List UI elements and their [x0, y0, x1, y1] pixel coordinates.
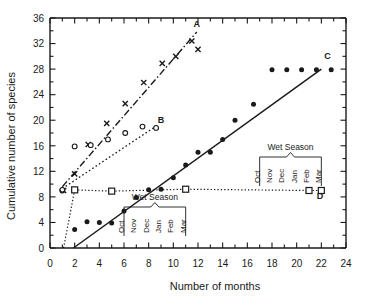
- data-point: [270, 67, 275, 72]
- data-point: [72, 144, 77, 149]
- month-label-mar-right: Mar: [314, 169, 323, 183]
- x-tick-label: 0: [47, 258, 53, 269]
- data-point: [85, 219, 90, 224]
- series-b: [60, 124, 159, 193]
- data-point: [173, 54, 178, 59]
- series-a: [61, 32, 201, 193]
- data-series-layer: [60, 32, 334, 248]
- chart-container: Cumulative number of species Number of m…: [0, 0, 367, 298]
- series-c: [72, 67, 334, 248]
- month-label-jan-right: Jan: [290, 170, 299, 183]
- data-point: [123, 131, 128, 136]
- x-tick-label: 20: [291, 258, 303, 269]
- month-label-jan-left: Jan: [154, 220, 163, 233]
- data-point: [299, 67, 304, 72]
- month-label-feb-left: Feb: [166, 219, 175, 233]
- month-label-feb-right: Feb: [302, 169, 311, 183]
- month-label-mar-left: Mar: [179, 219, 188, 233]
- y-tick-label: 16: [33, 141, 45, 152]
- species-accumulation-chart: Cumulative number of species Number of m…: [0, 0, 367, 298]
- month-label-dec-left: Dec: [142, 219, 151, 233]
- data-point: [183, 186, 189, 192]
- x-tick-label: 22: [316, 258, 328, 269]
- x-tick-label: 14: [217, 258, 229, 269]
- y-tick-label: 0: [38, 243, 44, 254]
- data-point: [183, 162, 188, 167]
- series-label-c: C: [324, 51, 331, 61]
- wet-season-title-right: Wet Season: [267, 142, 313, 152]
- data-point: [314, 67, 319, 72]
- x-tick-label: 24: [340, 258, 352, 269]
- wet-season-annotation-right: Wet SeasonOctNovDecJanFebMar: [253, 142, 324, 186]
- data-point: [306, 188, 312, 194]
- y-tick-label: 8: [38, 192, 44, 203]
- y-tick-label: 24: [33, 89, 45, 100]
- data-point: [141, 80, 146, 85]
- month-label-oct-left: Oct: [117, 220, 126, 233]
- data-point: [196, 150, 201, 155]
- y-tick-label: 20: [33, 115, 45, 126]
- data-point: [284, 67, 289, 72]
- series-label-a: A: [194, 19, 201, 29]
- y-tick-label: 28: [33, 64, 45, 75]
- x-tick-label: 4: [97, 258, 103, 269]
- data-point: [159, 187, 164, 192]
- data-point: [97, 220, 102, 225]
- y-tick-labels: 0 4 8 12 16 20 24 28 32 36: [33, 13, 45, 254]
- x-tick-label: 16: [242, 258, 254, 269]
- x-tick-label: 10: [168, 258, 180, 269]
- data-point: [140, 124, 145, 129]
- data-point: [123, 101, 128, 106]
- data-point: [72, 187, 78, 193]
- wet-season-title-left: Wet Season: [132, 192, 178, 202]
- series-d-rise-segment: [64, 190, 75, 248]
- annotation-layer: ABCDWet SeasonOctNovDecJanFebMarWet Seas…: [117, 19, 331, 236]
- data-point: [160, 61, 165, 66]
- data-point: [109, 221, 114, 226]
- data-point: [171, 175, 176, 180]
- data-point: [88, 143, 93, 148]
- x-tick-label: 6: [121, 258, 127, 269]
- series-d-origin-point: [60, 188, 65, 193]
- data-point: [109, 188, 115, 194]
- data-point: [251, 102, 256, 107]
- data-point: [195, 47, 200, 52]
- data-point: [329, 67, 334, 72]
- data-point: [189, 38, 194, 43]
- data-point: [233, 118, 238, 123]
- month-label-nov-left: Nov: [129, 219, 138, 233]
- axis-frame: [50, 18, 346, 248]
- series-b-trendline: [62, 125, 157, 188]
- wet-season-annotation-left: Wet SeasonOctNovDecJanFebMar: [117, 192, 188, 236]
- data-point: [72, 227, 77, 232]
- y-tick-label: 36: [33, 13, 45, 24]
- x-tick-label: 18: [266, 258, 278, 269]
- data-point: [154, 125, 159, 130]
- series-d: [60, 186, 324, 248]
- data-point: [104, 121, 109, 126]
- month-label-nov-right: Nov: [265, 169, 274, 183]
- data-point: [106, 137, 111, 142]
- series-label-d: D: [317, 191, 324, 201]
- data-point: [208, 150, 213, 155]
- y-tick-label: 32: [33, 38, 45, 49]
- y-axis-title: Cumulative number of species: [5, 72, 17, 220]
- x-tick-label: 12: [192, 258, 204, 269]
- data-point: [220, 137, 225, 142]
- y-tick-label: 12: [33, 166, 45, 177]
- series-label-b: B: [158, 115, 165, 125]
- x-tick-label: 8: [146, 258, 152, 269]
- x-tick-labels: 0 2 4 6 8 10 12 14 16 18 20 22 24: [47, 258, 352, 269]
- x-tick-label: 2: [72, 258, 78, 269]
- month-label-dec-right: Dec: [277, 169, 286, 183]
- x-axis-title: Number of months: [170, 280, 261, 292]
- month-label-oct-right: Oct: [253, 170, 262, 183]
- y-tick-label: 4: [38, 217, 44, 228]
